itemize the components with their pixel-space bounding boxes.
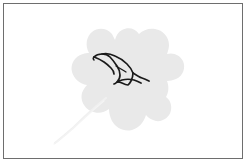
leaf-stem-group [54,98,106,144]
illustration-canvas: Leaf silhouette with bird line drawing [0,0,246,162]
artwork-drawing [0,0,246,162]
leaf-stem [55,98,106,143]
leaf-stem-highlight [54,101,104,144]
bird-beak [93,57,94,60]
